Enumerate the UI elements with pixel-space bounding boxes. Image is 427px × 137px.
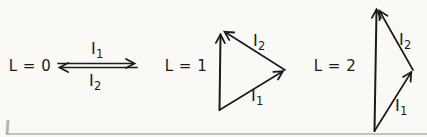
group-l0: L = 0 I 1 I 2 — [9, 39, 137, 93]
l1-i2-subscript: 2 — [258, 39, 265, 53]
group-l2-label: L = 2 — [314, 57, 357, 75]
l1-i1-subscript: 1 — [256, 94, 263, 108]
group-l2: L = 2 I 2 I 1 — [314, 10, 413, 131]
l0-i2-label: I — [89, 71, 94, 90]
l2-i1-subscript: 1 — [400, 104, 407, 118]
l0-i1-label: I — [91, 39, 96, 58]
l1-i2-label: I — [253, 31, 258, 50]
l1-i1-label: I — [251, 86, 256, 105]
scan-artifact-mark — [7, 120, 8, 134]
l2-i2-subscript: 2 — [404, 38, 411, 52]
l2-i1-label: I — [395, 96, 400, 115]
angular-momentum-coupling-figure: L = 0 I 1 I 2 L = 1 I 2 I 1 L = — [0, 0, 427, 137]
group-l1-label: L = 1 — [165, 57, 208, 75]
group-l0-label: L = 0 — [9, 57, 52, 75]
l2-resultant-vector — [375, 10, 377, 131]
l0-i1-subscript: 1 — [96, 47, 103, 61]
l2-vector-i1 — [375, 73, 412, 132]
l0-i2-subscript: 2 — [94, 79, 101, 93]
vector-coupling-diagram: L = 0 I 1 I 2 L = 1 I 2 I 1 L = — [0, 0, 427, 137]
l1-resultant-vector — [220, 35, 221, 110]
group-l1: L = 1 I 2 I 1 — [165, 31, 285, 110]
l2-i2-label: I — [399, 30, 404, 49]
